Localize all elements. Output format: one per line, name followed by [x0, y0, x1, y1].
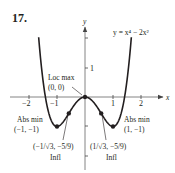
equation-label: y = x⁴ − 2x²	[113, 28, 150, 37]
infl-left-title: Infl	[50, 153, 61, 162]
x-tick-label: 2	[139, 99, 143, 108]
abs-min-right-title: Abs min	[124, 115, 150, 124]
abs-min-left-coords: (−1, −1)	[14, 125, 39, 134]
x-tick-label: 1	[111, 99, 115, 108]
loc-max-coords: (0, 0)	[48, 83, 65, 92]
x-tick-label: −1	[50, 99, 59, 108]
y-tick-label: 1	[90, 64, 94, 73]
loc-max-point	[83, 95, 87, 99]
graph-figure: 17. x y −2 −1 1 2 1 y = x⁴ − 2x² Loc max…	[0, 0, 175, 173]
infl-left-point	[67, 111, 71, 115]
loc-max-leader	[72, 87, 82, 95]
problem-number: 17.	[12, 11, 27, 25]
infl-right-title: Infl	[106, 153, 117, 162]
abs-min-left-point	[55, 124, 59, 128]
abs-min-right-point	[111, 124, 115, 128]
infl-left-coords: (−1/√3, −5/9)	[33, 142, 74, 151]
infl-right-coords: (1/√3, −5/9)	[90, 142, 127, 151]
loc-max-title: Loc max	[48, 73, 75, 82]
infl-right-point	[99, 111, 103, 115]
abs-min-left-title: Abs min	[17, 115, 43, 124]
x-axis-label: x	[165, 93, 170, 102]
x-tick-label: −2	[22, 99, 31, 108]
y-axis-label: y	[82, 17, 87, 26]
abs-min-right-coords: (1, −1)	[124, 125, 145, 134]
